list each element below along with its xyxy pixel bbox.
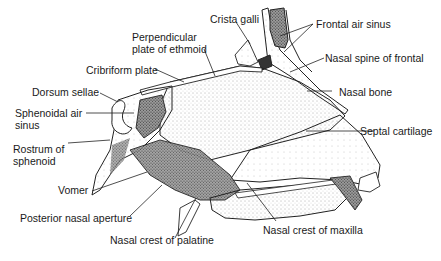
label-perpendicular-plate-line1: Perpendicular [132, 31, 197, 43]
label-nasal-crest-of-palatine: Nasal crest of palatine [110, 234, 214, 246]
label-sphenoidal-air-sinus-line2: sinus [15, 119, 40, 131]
nasal-septum-diagram: Crista galli Frontal air sinus Perpendic… [0, 0, 441, 261]
label-perpendicular-plate-line2: plate of ethmoid [132, 43, 207, 55]
label-frontal-air-sinus: Frontal air sinus [316, 18, 391, 30]
label-sphenoidal-air-sinus-line1: Sphenoidal air [15, 107, 82, 119]
label-nasal-bone: Nasal bone [339, 86, 392, 98]
label-dorsum-sellae: Dorsum sellae [32, 86, 99, 98]
crista-galli-shape [235, 40, 258, 66]
label-crista-galli: Crista galli [210, 13, 259, 25]
label-rostrum-line1: Rostrum of [13, 143, 64, 155]
label-vomer: Vomer [58, 184, 88, 196]
label-nasal-spine-of-frontal: Nasal spine of frontal [325, 52, 424, 64]
label-posterior-nasal-aperture: Posterior nasal aperture [20, 212, 132, 224]
label-rostrum-line2: sphenoid [13, 155, 56, 167]
label-nasal-crest-of-maxilla: Nasal crest of maxilla [263, 224, 363, 236]
label-septal-cartilage: Septal cartilage [360, 125, 432, 137]
label-cribriform-plate: Cribriform plate [86, 64, 158, 76]
